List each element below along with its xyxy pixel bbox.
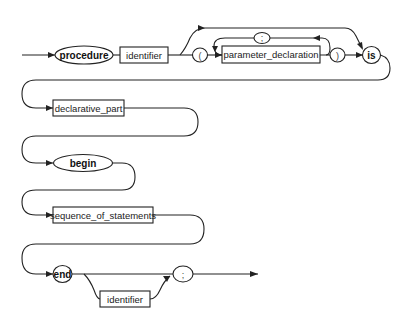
symbol-rparen-label: ) bbox=[336, 51, 339, 61]
arrow-icon bbox=[48, 52, 55, 58]
symbol-separator-label: ; bbox=[261, 33, 264, 43]
optional-branch-line bbox=[84, 274, 100, 299]
arrow-icon bbox=[357, 42, 363, 50]
nonterminal-parameter-declaration-label: parameter_declaration bbox=[223, 49, 318, 60]
symbol-lparen-label: ( bbox=[199, 51, 202, 61]
arrow-icon bbox=[46, 105, 53, 111]
keyword-procedure-label: procedure bbox=[60, 50, 109, 61]
keyword-end-label: end bbox=[54, 269, 72, 280]
arrow-icon bbox=[163, 276, 170, 282]
arrow-icon bbox=[46, 271, 53, 277]
arrow-icon bbox=[212, 46, 218, 52]
row-procedure-header: procedure identifier ( parameter_declara… bbox=[22, 25, 390, 111]
arrow-icon bbox=[313, 35, 320, 41]
keyword-is-label: is bbox=[367, 50, 376, 61]
arrow-icon bbox=[46, 160, 53, 166]
symbol-terminator-label: ; bbox=[182, 270, 185, 280]
arrow-icon bbox=[250, 271, 258, 277]
arrow-icon bbox=[198, 25, 205, 31]
nonterminal-identifier-label: identifier bbox=[126, 50, 162, 61]
syntax-diagram: procedure identifier ( parameter_declara… bbox=[0, 0, 405, 329]
nonterminal-sequence-of-statements-label: sequence_of_statements bbox=[50, 210, 156, 221]
row-end: end identifier ; bbox=[53, 266, 258, 308]
row-sequence-of-statements: sequence_of_statements bbox=[22, 207, 204, 277]
return-line bbox=[22, 215, 204, 274]
keyword-begin-label: begin bbox=[70, 158, 97, 169]
nonterminal-declarative-part-label: declarative_part bbox=[55, 103, 123, 114]
nonterminal-identifier-optional-label: identifier bbox=[107, 294, 143, 305]
